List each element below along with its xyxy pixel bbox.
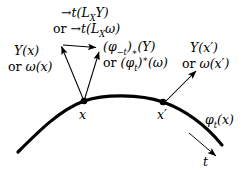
or-connective: or (182, 56, 196, 71)
lie-derivative-diagram: →t(LXY) or →t(LXω) (φ−t)∗(Y) or (φt)∗(ω)… (0, 0, 252, 174)
point-x-marker (81, 98, 88, 105)
vector-at-x-label-line-1: Y(x) (14, 44, 39, 57)
lie-derivative-argument: ω) (105, 21, 120, 36)
form-at-x-prime-body: ω(x′) (200, 56, 230, 71)
pullback-argument: (ω) (148, 55, 168, 70)
or-connective: or (8, 59, 22, 74)
vector-Y-at-x-left (62, 47, 85, 102)
diagram-canvas (0, 0, 252, 174)
form-at-x-body: ω(x) (26, 59, 53, 74)
lie-derivative-argument: Y) (96, 5, 109, 20)
vector-difference-lie-derivative (63, 45, 96, 48)
pushforward-argument: (Y) (137, 39, 155, 54)
lie-derivative-label-line-2: or →t(LXω) (53, 22, 120, 35)
vector-at-x-prime-label-line-1: Y(x′) (190, 41, 218, 54)
vector-at-x-body: Y(x) (14, 43, 39, 58)
or-connective: or (103, 55, 117, 70)
flow-curve (18, 96, 222, 152)
pullback-label: or (φt)∗(ω) (103, 56, 168, 69)
vector-at-x-label-line-2: or ω(x) (8, 60, 53, 73)
vector-at-x-prime-body: Y(x′) (190, 40, 218, 55)
phi-symbol: φ (108, 39, 117, 54)
right-arrow-icon: → (61, 5, 71, 20)
parameter-t-label: t (203, 155, 208, 168)
lie-derivative-body: t(L (71, 5, 89, 20)
or-connective: or (53, 21, 67, 36)
vector-at-x-prime-label-line-2: or ω(x′) (182, 57, 229, 70)
point-x-prime-label: x′ (157, 108, 167, 121)
vector-Y-at-x-prime (166, 71, 196, 101)
vector-flow-direction-t (189, 133, 216, 156)
right-arrow-icon: → (71, 21, 81, 36)
lie-derivative-body: t(L (81, 21, 99, 36)
pushforward-label: (φ−t)∗(Y) (103, 40, 155, 53)
phi-symbol: φ (125, 55, 134, 70)
flow-argument: (x) (217, 112, 234, 127)
phi-symbol: φ (205, 112, 214, 127)
vector-transported-at-x-right (84, 52, 99, 101)
point-x-label: x (79, 108, 86, 121)
point-x-prime-marker (160, 99, 167, 106)
flow-curve-label: φt(x) (205, 113, 234, 126)
lie-derivative-label-line-1: →t(LXY) (61, 6, 109, 19)
